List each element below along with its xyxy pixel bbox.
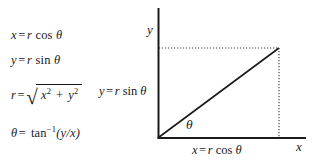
vertical-leg-radius: r (115, 84, 120, 98)
horizontal-leg-function: cos (216, 143, 233, 157)
vertical-leg-equals: = (105, 84, 115, 98)
vertical-leg-lhs: y (99, 84, 105, 98)
y-axis-label: y (147, 22, 153, 38)
horizontal-leg-angle: θ (235, 143, 241, 157)
vertical-leg-angle: θ (140, 84, 146, 98)
right-triangle-diagram (0, 0, 313, 164)
x-axis-label: x (296, 139, 302, 155)
vertical-leg-label: y=r sin θ (99, 84, 146, 99)
horizontal-leg-equals: = (198, 143, 208, 157)
angle-theta-label: θ (186, 117, 193, 133)
vertical-leg-function: sin (123, 84, 138, 98)
horizontal-leg-radius: r (208, 143, 213, 157)
hypotenuse-line (159, 48, 280, 138)
horizontal-leg-label: x=r cos θ (192, 143, 242, 158)
polar-coordinate-figure: x=r cos θ y=r sin θ r=√x2 + y2 θ= tan−1(… (0, 0, 313, 164)
horizontal-leg-lhs: x (192, 143, 198, 157)
